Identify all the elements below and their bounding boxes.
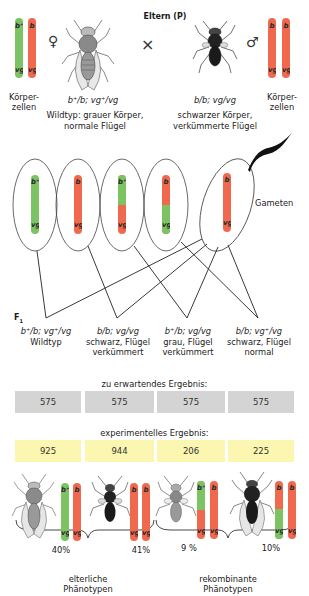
percentage-3: 9 %: [174, 543, 204, 553]
result-3-chromosome-a: b⁺vg: [197, 481, 205, 539]
percentage-4: 10%: [256, 543, 286, 553]
result-4-chromosome-a: bvg⁺: [275, 481, 283, 539]
result-4-chromosome-b: bvg: [288, 481, 296, 539]
result-1-chromosome-a: b⁺vg⁺: [61, 483, 69, 541]
recombinant-phenotypes-label-2: Phänotypen: [188, 584, 268, 594]
parental-phenotypes-label-1: elterliche: [50, 574, 126, 584]
result-1-chromosome-b: bvg: [73, 483, 81, 541]
result-3-chromosome-b: bvg: [210, 481, 218, 539]
result-2-chromosome-a: bvg: [130, 483, 138, 541]
parental-phenotypes-label-2: Phänotypen: [50, 584, 126, 594]
result-flies-icons: [0, 0, 309, 596]
percentage-2: 41%: [126, 545, 156, 555]
recombinant-phenotypes-label-1: rekombinante: [188, 574, 268, 584]
result-2-chromosome-b: bvg: [142, 483, 150, 541]
percentage-1: 40%: [46, 545, 76, 555]
